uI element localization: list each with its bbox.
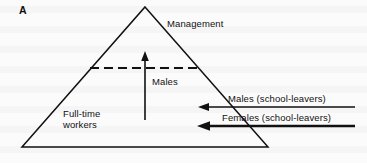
- panel-label: A: [19, 5, 27, 17]
- label-management: Management: [167, 18, 223, 30]
- label-full-time-workers-line1: Full-time: [63, 108, 100, 120]
- label-males-school-leavers: Males (school-leavers): [228, 93, 326, 105]
- figure-panel-a: A Management Males Full-time workers Mal…: [0, 0, 367, 163]
- label-males-promotion: Males: [152, 76, 178, 88]
- label-full-time-workers-line2: workers: [63, 119, 97, 131]
- arrow-up-icon: [141, 51, 149, 120]
- label-females-school-leavers: Females (school-leavers): [222, 112, 331, 124]
